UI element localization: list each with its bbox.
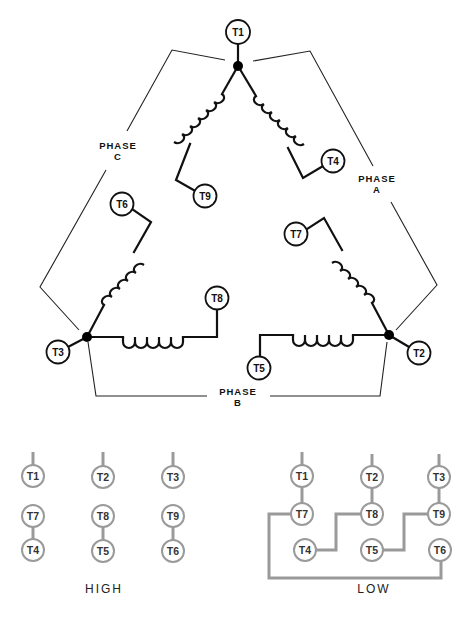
high-terminal-t7: T7 xyxy=(22,505,44,527)
high-terminal-t1: T1 xyxy=(22,465,44,487)
high-terminal-t2: T2 xyxy=(92,466,114,488)
svg-text:T3: T3 xyxy=(433,471,445,483)
svg-text:T4: T4 xyxy=(27,544,39,556)
svg-text:T2: T2 xyxy=(413,348,425,359)
high-terminal-t5: T5 xyxy=(92,540,114,562)
low-terminal-t3: T3 xyxy=(428,466,450,488)
low-label: LOW xyxy=(357,582,390,596)
low-terminal-t9: T9 xyxy=(428,503,450,525)
terminal-t8: T8 xyxy=(206,287,229,310)
high-label: HIGH xyxy=(85,582,123,596)
svg-text:T1: T1 xyxy=(27,470,39,482)
svg-text:PHASE: PHASE xyxy=(219,386,257,397)
svg-text:T7: T7 xyxy=(296,508,308,520)
low-terminal-t4: T4 xyxy=(294,539,316,561)
svg-text:C: C xyxy=(114,151,122,162)
winding-t2-t5 xyxy=(260,335,389,356)
svg-text:T5: T5 xyxy=(253,363,265,374)
high-terminal-t8: T8 xyxy=(92,505,114,527)
terminal-t5: T5 xyxy=(248,357,271,380)
svg-text:T8: T8 xyxy=(366,508,378,520)
svg-text:T5: T5 xyxy=(97,545,109,557)
phase-a-label: PHASE A xyxy=(358,173,396,195)
high-terminal-t4: T4 xyxy=(22,539,44,561)
winding-t1-t9 xyxy=(174,66,238,192)
low-terminal-t2: T2 xyxy=(361,466,383,488)
svg-text:T4: T4 xyxy=(327,156,339,167)
svg-text:T9: T9 xyxy=(167,510,179,522)
svg-text:T2: T2 xyxy=(366,471,378,483)
svg-text:T6: T6 xyxy=(167,545,179,557)
low-terminal-t7: T7 xyxy=(291,503,313,525)
winding-t2-t7 xyxy=(307,218,389,335)
svg-text:T5: T5 xyxy=(366,544,378,556)
high-terminal-t9: T9 xyxy=(162,505,184,527)
phase-a-bracket xyxy=(253,51,437,330)
winding-t3-t8 xyxy=(87,310,217,348)
svg-text:T9: T9 xyxy=(199,191,211,202)
svg-text:T1: T1 xyxy=(232,27,244,38)
svg-text:T8: T8 xyxy=(97,510,109,522)
low-terminal-t5: T5 xyxy=(361,539,383,561)
svg-text:T7: T7 xyxy=(290,229,302,240)
low-terminal-t1: T1 xyxy=(291,465,313,487)
phase-b-label: PHASE B xyxy=(219,386,257,408)
winding-t3-t6 xyxy=(87,209,151,337)
terminal-t1: T1 xyxy=(226,20,250,44)
svg-text:T7: T7 xyxy=(27,510,39,522)
svg-text:T4: T4 xyxy=(299,544,311,556)
svg-text:T6: T6 xyxy=(434,544,446,556)
terminal-t4: T4 xyxy=(322,150,345,173)
svg-text:T2: T2 xyxy=(97,471,109,483)
svg-text:PHASE: PHASE xyxy=(358,173,396,184)
svg-text:T8: T8 xyxy=(211,293,223,304)
svg-text:A: A xyxy=(373,184,381,195)
high-connection: T1 T2 T3 T7 T8 T9 T4 T5 T6 HIGH xyxy=(22,452,184,596)
svg-text:T3: T3 xyxy=(52,347,64,358)
delta-winding-diagram: T1 T2 T3 T4 T5 T6 T7 T8 T9 PHASE C PHASE… xyxy=(0,0,474,621)
high-terminal-t3: T3 xyxy=(162,466,184,488)
terminal-t6: T6 xyxy=(111,193,134,216)
terminal-t2: T2 xyxy=(408,342,431,365)
high-terminal-t6: T6 xyxy=(162,540,184,562)
terminal-t3: T3 xyxy=(47,341,70,364)
junction-t1 xyxy=(233,61,243,71)
svg-text:T1: T1 xyxy=(296,470,308,482)
svg-text:PHASE: PHASE xyxy=(99,140,137,151)
junction-t3 xyxy=(82,332,92,342)
terminal-t9: T9 xyxy=(194,185,217,208)
low-terminal-t6: T6 xyxy=(429,539,451,561)
terminal-t7: T7 xyxy=(285,223,308,246)
svg-text:T6: T6 xyxy=(116,199,128,210)
svg-text:B: B xyxy=(234,397,242,408)
svg-text:T9: T9 xyxy=(433,508,445,520)
phase-c-label: PHASE C xyxy=(99,140,137,162)
svg-text:T3: T3 xyxy=(167,471,179,483)
low-connection: T1 T2 T3 T7 T8 T9 T4 T5 T6 LOW xyxy=(269,452,451,596)
low-terminal-t8: T8 xyxy=(361,503,383,525)
junction-t2 xyxy=(384,330,394,340)
winding-t1-t4 xyxy=(238,66,323,178)
